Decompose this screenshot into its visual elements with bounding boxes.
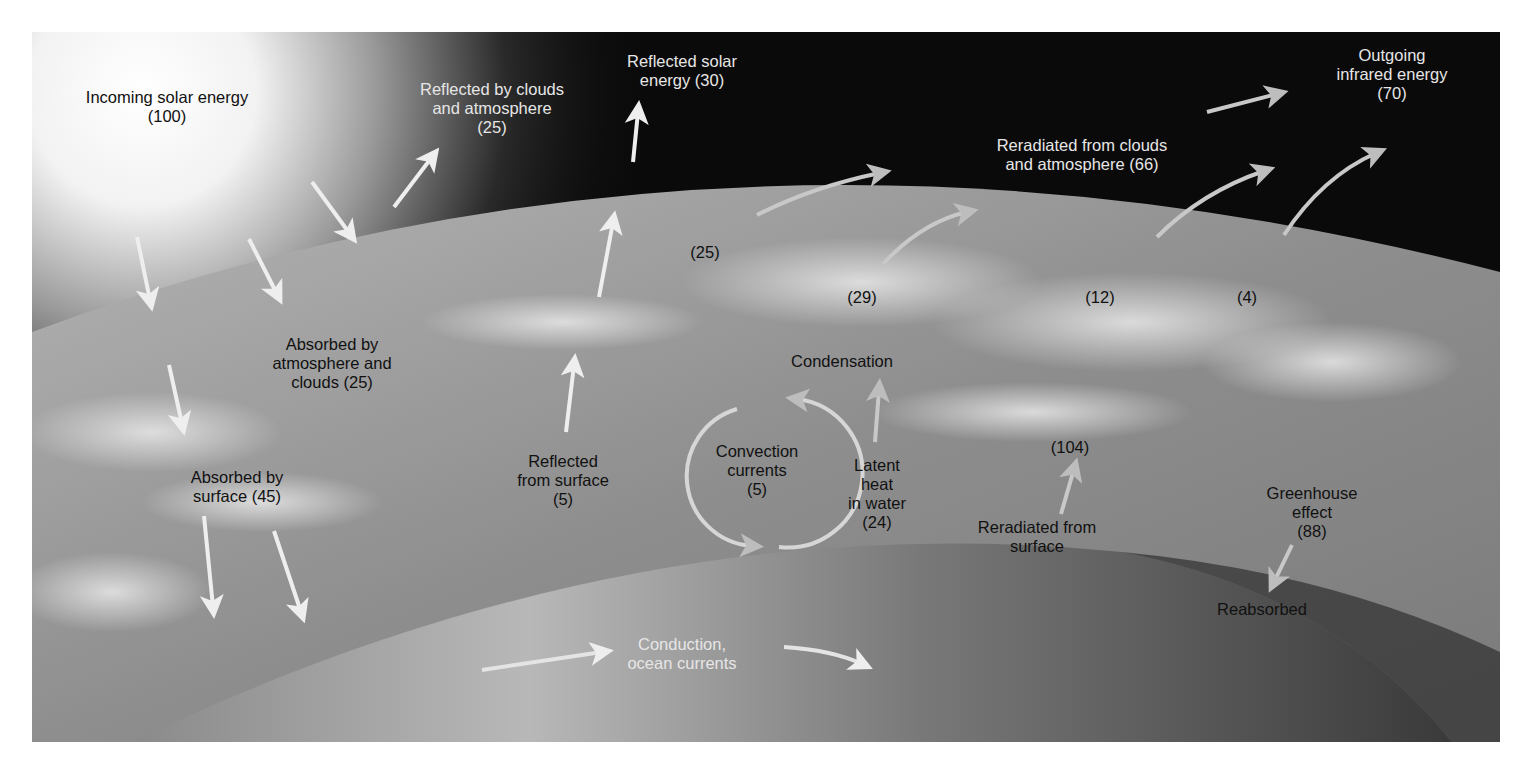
- value-12: (12): [1075, 288, 1125, 307]
- incoming-solar-label: Incoming solar energy (100): [32, 88, 302, 126]
- label-line: currents: [702, 461, 812, 480]
- label-line: Incoming solar energy: [32, 88, 302, 107]
- label-line: Greenhouse: [1252, 484, 1372, 503]
- label-line: Reflected solar: [602, 52, 762, 71]
- label-line: infrared energy: [1312, 65, 1472, 84]
- label-value: (24): [832, 513, 922, 532]
- label-line: in water: [832, 494, 922, 513]
- label-value: (5): [488, 490, 638, 509]
- label-value: energy (30): [602, 71, 762, 90]
- label-line: and atmosphere: [392, 99, 592, 118]
- label-line: Absorbed by: [162, 468, 312, 487]
- value-29: (29): [837, 288, 887, 307]
- label-line: heat: [832, 475, 922, 494]
- reabsorbed-label: Reabsorbed: [1202, 600, 1322, 619]
- condensation-label: Condensation: [772, 352, 912, 371]
- value-104: (104): [1040, 438, 1100, 457]
- reradiated-clouds-label: Reradiated from clouds and atmosphere (6…: [972, 136, 1192, 174]
- label-value: and atmosphere (66): [972, 155, 1192, 174]
- absorbed-atmosphere-label: Absorbed by atmosphere and clouds (25): [252, 335, 412, 392]
- value-4: (4): [1222, 288, 1272, 307]
- label-line: Convection: [702, 442, 812, 461]
- label-line: Outgoing: [1312, 46, 1472, 65]
- energy-budget-diagram: Incoming solar energy (100) Reflected by…: [32, 32, 1500, 742]
- reflected-solar-label: Reflected solar energy (30): [602, 52, 762, 90]
- label-line: Conduction,: [602, 635, 762, 654]
- label-line: Latent: [832, 456, 922, 475]
- latent-heat-label: Latent heat in water (24): [832, 456, 922, 532]
- reradiated-surface-label: Reradiated from surface: [957, 518, 1117, 556]
- reflected-surface-label: Reflected from surface (5): [488, 452, 638, 509]
- label-line: Reradiated from clouds: [972, 136, 1192, 155]
- label-value: (5): [702, 480, 812, 499]
- label-line: ocean currents: [602, 654, 762, 673]
- label-value: (100): [32, 107, 302, 126]
- convection-label: Convection currents (5): [702, 442, 812, 499]
- label-line: from surface: [488, 471, 638, 490]
- label-value: (88): [1252, 522, 1372, 541]
- label-value: clouds (25): [252, 373, 412, 392]
- absorbed-surface-label: Absorbed by surface (45): [162, 468, 312, 506]
- label-line: surface: [957, 537, 1117, 556]
- label-line: Reradiated from: [957, 518, 1117, 537]
- label-line: Reflected: [488, 452, 638, 471]
- value-25-atmosphere: (25): [680, 243, 730, 262]
- greenhouse-effect-label: Greenhouse effect (88): [1252, 484, 1372, 541]
- reflected-by-clouds-label: Reflected by clouds and atmosphere (25): [392, 80, 592, 137]
- label-value: (25): [392, 118, 592, 137]
- label-line: Absorbed by: [252, 335, 412, 354]
- label-value: surface (45): [162, 487, 312, 506]
- outgoing-infrared-label: Outgoing infrared energy (70): [1312, 46, 1472, 103]
- label-line: atmosphere and: [252, 354, 412, 373]
- label-line: Reflected by clouds: [392, 80, 592, 99]
- conduction-label: Conduction, ocean currents: [602, 635, 762, 673]
- label-value: (70): [1312, 84, 1472, 103]
- label-line: effect: [1252, 503, 1372, 522]
